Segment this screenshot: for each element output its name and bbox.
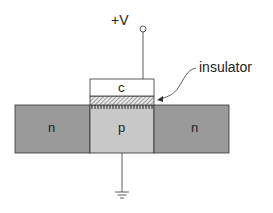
source-label: n — [48, 121, 55, 134]
voltage-terminal-icon — [140, 26, 146, 32]
voltage-label: +V — [111, 13, 129, 27]
insulator-layer — [90, 96, 154, 105]
channel-charges — [92, 105, 152, 109]
insulator-label: insulator — [199, 60, 252, 74]
gate-label: c — [118, 81, 125, 94]
ground-icon — [115, 192, 129, 198]
body-label: p — [118, 121, 125, 134]
drain-label: n — [191, 121, 198, 134]
insulator-arrow-icon — [160, 68, 196, 99]
mosfet-diagram — [0, 0, 273, 213]
